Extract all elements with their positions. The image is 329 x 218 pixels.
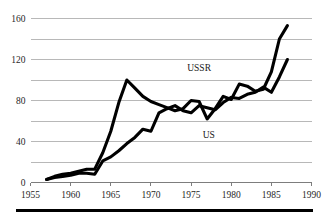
y-axis-tick-label: 160 — [11, 14, 26, 24]
axis-ticks — [31, 183, 312, 187]
series-line-ussr — [47, 26, 288, 180]
series-label-ussr: USSR — [187, 63, 211, 73]
gridlines — [31, 19, 312, 183]
x-axis-tick-label: 1975 — [182, 190, 201, 200]
y-axis-tick-label: 80 — [16, 96, 26, 106]
y-axis-tick-labels: 04080120160 — [11, 14, 26, 188]
x-axis-tick-labels: 19551960196519701975198019851990 — [21, 190, 321, 200]
series-line-us — [47, 60, 288, 180]
series-lines — [47, 26, 288, 180]
x-axis-tick-label: 1985 — [262, 190, 281, 200]
y-axis-tick-label: 40 — [16, 137, 26, 147]
x-axis-tick-label: 1965 — [101, 190, 120, 200]
x-axis-tick-label: 1970 — [141, 190, 160, 200]
x-axis-tick-label: 1990 — [302, 190, 321, 200]
chart-figure: 04080120160 1955196019651970197519801985… — [0, 0, 329, 218]
x-axis-tick-label: 1955 — [21, 190, 40, 200]
y-axis-tick-label: 120 — [11, 55, 26, 65]
line-chart: 04080120160 1955196019651970197519801985… — [0, 0, 329, 218]
y-axis-tick-label: 0 — [21, 178, 26, 188]
series-label-us: US — [203, 130, 215, 140]
x-axis-tick-label: 1960 — [61, 190, 80, 200]
x-axis-tick-label: 1980 — [222, 190, 241, 200]
